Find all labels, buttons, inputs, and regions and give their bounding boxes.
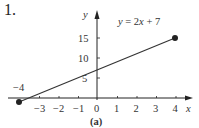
end-point bbox=[172, 35, 178, 41]
y-axis-arrow-icon bbox=[95, 10, 100, 19]
svg-text:1: 1 bbox=[114, 103, 119, 114]
x-tick-labels: −3 −2 −1 0 1 2 3 4 x bbox=[34, 103, 191, 114]
svg-text:0: 0 bbox=[94, 103, 99, 114]
start-point bbox=[16, 99, 22, 105]
svg-text:x: x bbox=[185, 103, 191, 114]
svg-text:3: 3 bbox=[153, 103, 158, 114]
y-tick-labels: 5 10 15 y bbox=[78, 9, 89, 84]
line-graph: −3 −2 −1 0 1 2 3 4 x 5 10 15 y −4 y = 2x… bbox=[0, 0, 199, 128]
svg-text:15: 15 bbox=[78, 33, 89, 44]
x-axis-arrow-icon bbox=[185, 96, 193, 101]
svg-text:−2: −2 bbox=[53, 103, 64, 114]
x-start-annotation: −4 bbox=[13, 82, 25, 93]
svg-text:y: y bbox=[82, 9, 88, 20]
figure-caption: (a) bbox=[90, 116, 103, 128]
equation-label: y = 2x + 7 bbox=[117, 16, 160, 27]
svg-text:4: 4 bbox=[173, 103, 179, 114]
svg-text:−1: −1 bbox=[73, 103, 84, 114]
svg-text:2: 2 bbox=[134, 103, 139, 114]
svg-text:−3: −3 bbox=[34, 103, 45, 114]
svg-text:10: 10 bbox=[78, 53, 89, 64]
